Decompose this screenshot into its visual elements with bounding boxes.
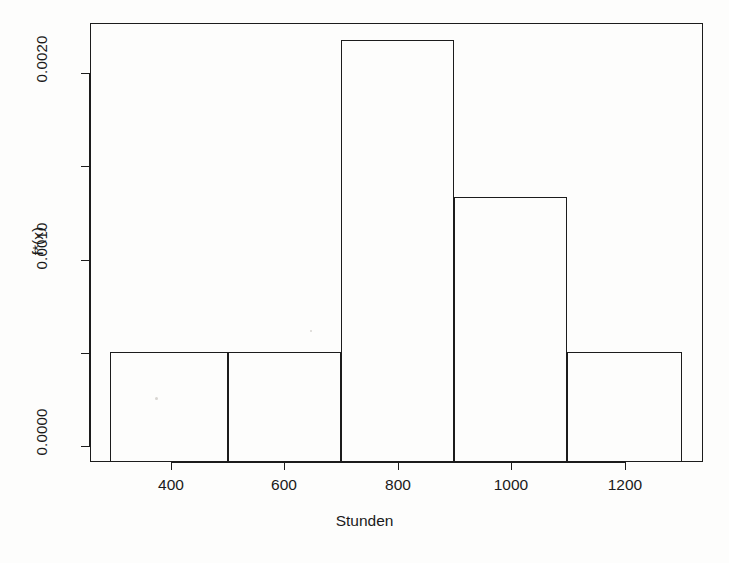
x-axis-tick (171, 462, 172, 470)
x-axis-tick-label: 600 (254, 476, 314, 494)
x-axis-tick (511, 462, 512, 470)
x-axis-tick (398, 462, 399, 470)
plot-data-area (90, 23, 703, 462)
y-axis-tick (81, 166, 89, 167)
histogram-bar (110, 352, 228, 462)
y-axis-tick (81, 260, 89, 261)
histogram-bar (341, 40, 454, 462)
y-axis-tick (81, 353, 89, 354)
y-axis-tick-label: 0.0000 (33, 440, 50, 456)
y-axis-title: f*(x) (29, 211, 47, 271)
y-axis-tick (81, 446, 89, 447)
y-axis-tick-label: 0.0020 (33, 67, 50, 83)
x-axis-tick-label: 400 (141, 476, 201, 494)
x-axis-tick (284, 462, 285, 470)
histogram-figure: 0.0020 0.0010 0.0000 400 600 800 1000 12… (0, 0, 729, 563)
x-axis-title: Stunden (0, 512, 729, 530)
y-axis-line (89, 73, 90, 447)
x-axis-tick-label: 1200 (595, 476, 655, 494)
histogram-bar (454, 197, 567, 462)
histogram-bar (228, 352, 341, 462)
histogram-bar (567, 352, 682, 462)
x-axis-tick-label: 1000 (481, 476, 541, 494)
x-axis-tick (625, 462, 626, 470)
x-axis-tick-label: 800 (368, 476, 428, 494)
y-axis-tick (81, 73, 89, 74)
